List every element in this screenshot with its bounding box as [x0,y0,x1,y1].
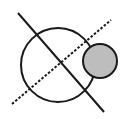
small-shaded-circle [83,44,117,78]
geometry-diagram [0,0,136,119]
